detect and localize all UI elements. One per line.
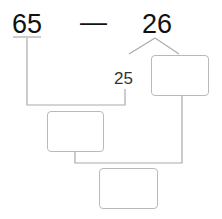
subtrahend: 26 [142, 11, 172, 38]
split-part: 25 [114, 70, 133, 87]
bracket-minuend-to-split [27, 38, 125, 105]
minus-sign: — [80, 9, 107, 36]
minuend: 65 [12, 11, 42, 38]
answer-box-result[interactable] [99, 168, 158, 209]
answer-box-intermediate[interactable] [47, 111, 104, 152]
branch-right [155, 38, 179, 54]
branch-left [129, 38, 155, 54]
answer-box-split[interactable] [151, 55, 209, 96]
